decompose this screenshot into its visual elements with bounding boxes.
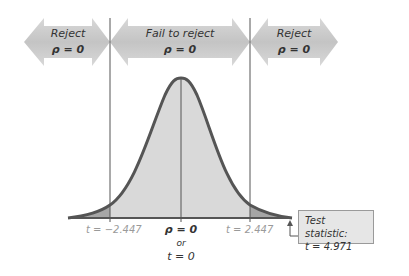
test-statistic-value: t = 4.971 — [305, 240, 367, 253]
right-critical-value: t = 2.447 — [226, 224, 273, 235]
center-label-rho: ρ = 0 — [156, 223, 206, 236]
center-label-or: or — [156, 238, 206, 248]
reject-left-label: Reject ρ = 0 — [44, 26, 92, 58]
left-critical-value: t = −2.447 — [86, 224, 142, 235]
reject-right-label: Reject ρ = 0 — [268, 26, 320, 58]
center-label-t: t = 0 — [156, 250, 206, 263]
center-area — [110, 78, 250, 218]
test-statistic-box: Test statistic: t = 4.971 — [298, 210, 374, 244]
fail-to-reject-label: Fail to reject ρ = 0 — [128, 26, 232, 58]
test-statistic-label: Test statistic: — [305, 214, 367, 240]
pointer-arrowhead — [287, 220, 293, 226]
